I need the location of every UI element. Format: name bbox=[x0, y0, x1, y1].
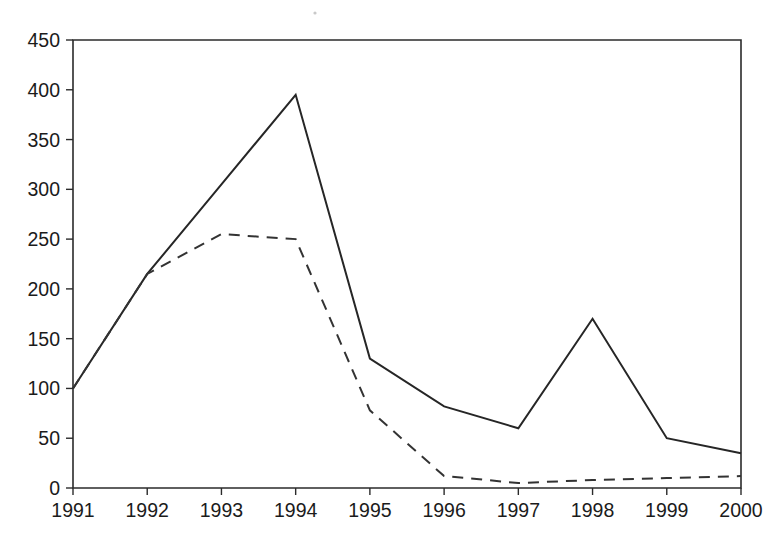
scan-speck bbox=[313, 11, 316, 14]
x-tick-label: 1998 bbox=[571, 499, 614, 521]
y-tick-label: 250 bbox=[27, 228, 60, 250]
y-tick-label: 200 bbox=[27, 278, 60, 300]
x-tick-label: 1992 bbox=[126, 499, 169, 521]
x-tick-label: 1991 bbox=[51, 499, 94, 521]
chart-container: 050100150200250300350400450 199119921993… bbox=[0, 0, 768, 549]
x-tick-label: 1993 bbox=[200, 499, 243, 521]
line-chart: 050100150200250300350400450 199119921993… bbox=[0, 0, 768, 549]
x-tick-label: 2000 bbox=[719, 499, 763, 521]
y-tick-label: 50 bbox=[38, 427, 60, 449]
x-tick-label: 1994 bbox=[274, 499, 318, 521]
y-tick-label: 300 bbox=[27, 178, 60, 200]
y-tick-label: 0 bbox=[49, 477, 60, 499]
x-tick-label: 1995 bbox=[348, 499, 392, 521]
y-tick-label: 450 bbox=[27, 29, 60, 51]
y-tick-label: 100 bbox=[27, 377, 60, 399]
y-tick-label: 400 bbox=[27, 79, 60, 101]
y-tick-label: 150 bbox=[27, 328, 60, 350]
x-tick-label: 1999 bbox=[645, 499, 688, 521]
x-tick-label: 1997 bbox=[497, 499, 540, 521]
chart-background bbox=[0, 0, 768, 549]
x-tick-label: 1996 bbox=[422, 499, 465, 521]
y-tick-label: 350 bbox=[27, 129, 60, 151]
